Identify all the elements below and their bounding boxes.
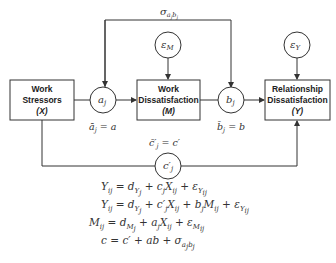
equation-2: Yij = dYj + c′jXij + bjMij + εYij bbox=[101, 198, 249, 215]
work-dissatisfaction-node: Work Dissatisfaction (M) bbox=[137, 80, 200, 120]
equation-1: Yij = dYj + cjXij + εYij bbox=[101, 180, 207, 197]
path-b-node: bj b̄j = b bbox=[217, 87, 245, 134]
c-mean-label: c̄′j = c′ bbox=[149, 137, 181, 150]
path-a-node: aj āj = a bbox=[89, 87, 117, 134]
error-m-node: εM bbox=[155, 32, 181, 79]
node-label-line3: (X) bbox=[36, 106, 48, 116]
node-label-line2: Stressors bbox=[22, 95, 61, 105]
error-y-node: εY bbox=[284, 32, 310, 79]
node-label-line1: Work bbox=[31, 84, 52, 94]
relationship-dissatisfaction-node: Relationship Dissatisfaction (Y) bbox=[265, 80, 330, 120]
equation-4: c = c′ + ab + σajbj bbox=[101, 234, 195, 251]
node-label-line3: (M) bbox=[162, 106, 175, 116]
sigma-label: σajbj bbox=[160, 6, 178, 21]
node-label-line2: Dissatisfaction bbox=[267, 95, 327, 105]
work-stressors-node: Work Stressors (X) bbox=[10, 80, 74, 120]
node-label-line3: (Y) bbox=[292, 106, 304, 116]
path-c-prime: c′j c̄′j = c′ bbox=[42, 120, 297, 179]
equation-3: Mij = dMj + ajXij + εMij bbox=[89, 216, 204, 233]
b-mean-label: b̄j = b bbox=[217, 121, 245, 134]
node-label-line1: Work bbox=[158, 84, 179, 94]
node-label-line2: Dissatisfaction bbox=[138, 95, 198, 105]
a-mean-label: āj = a bbox=[89, 121, 117, 134]
node-label-line1: Relationship bbox=[272, 84, 323, 94]
